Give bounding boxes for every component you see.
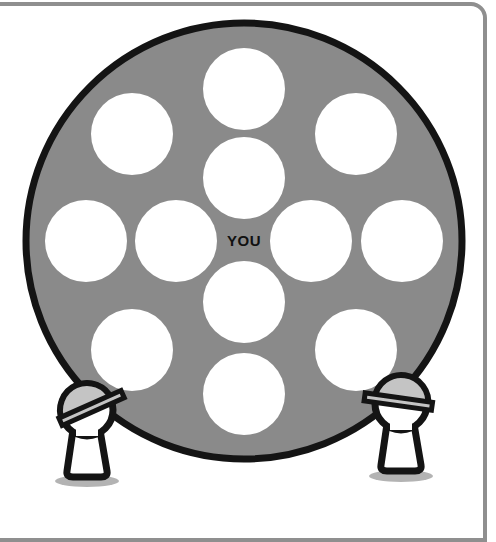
- seat-upper-right: [315, 93, 397, 175]
- seat-inner-top: [203, 137, 285, 219]
- seat-inner-right: [270, 200, 352, 282]
- seat-lower-left: [91, 309, 173, 391]
- seat-bottom: [203, 353, 285, 435]
- seat-far-right: [361, 200, 443, 282]
- seat-inner-left: [135, 200, 217, 282]
- seat-upper-left: [91, 93, 173, 175]
- worker-body-join: [390, 422, 412, 430]
- center-label-you: YOU: [224, 232, 264, 249]
- seat-inner-bottom: [203, 261, 285, 343]
- seat-far-left: [45, 200, 127, 282]
- worker-body-join: [76, 428, 98, 436]
- seat-top: [203, 48, 285, 130]
